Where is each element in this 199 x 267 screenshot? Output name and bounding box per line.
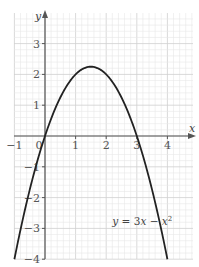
equation-label: y = 3x − x2 xyxy=(111,215,172,227)
x-tick-label: 1 xyxy=(72,139,79,152)
y-axis-label: y xyxy=(34,10,42,23)
equation-part: − xyxy=(146,215,161,227)
y-tick-label: −4 xyxy=(24,253,40,266)
y-tick-label: −3 xyxy=(24,222,40,235)
x-axis-label: x xyxy=(189,122,196,135)
chart: −101234−4−3−2−1123 x y y = 3x − x2 xyxy=(0,0,199,267)
equation-part: = 3 xyxy=(118,215,140,227)
y-tick-label: 2 xyxy=(33,68,40,81)
x-tick-label: −1 xyxy=(6,139,22,152)
equation-part: 2 xyxy=(168,215,172,223)
x-tick-label: 4 xyxy=(164,139,171,152)
y-tick-label: 3 xyxy=(33,38,40,51)
y-axis-arrow-icon xyxy=(42,10,48,18)
y-tick-label: 1 xyxy=(33,99,40,112)
ticks: −101234−4−3−2−1123 xyxy=(6,38,171,267)
x-tick-label: 2 xyxy=(103,139,110,152)
